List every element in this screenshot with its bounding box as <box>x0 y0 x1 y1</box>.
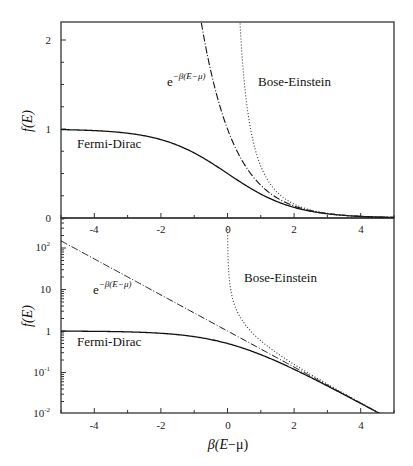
bot-xtick--2: -2 <box>156 419 165 431</box>
fermi-bose-chart: 0 1 2 -4 -2 0 2 4 102 10 1 10-1 10-2 -4 … <box>0 0 413 466</box>
top-y-axis-label: f(E) <box>20 110 36 132</box>
top-panel-plot <box>61 0 394 217</box>
top-xtick--2: -2 <box>156 223 165 235</box>
bot-xtick-4: 4 <box>358 419 364 431</box>
bot-xtick--4: -4 <box>89 419 99 431</box>
bot-ytick-1e-1: 10-1 <box>33 365 50 378</box>
top-annotation-boltzmann: e−β(E−μ) <box>167 71 205 89</box>
bot-ytick-10: 10 <box>40 283 52 295</box>
bose-einstein-curve-top <box>237 0 394 217</box>
top-ytick-2: 2 <box>46 34 52 46</box>
bottom-y-axis-label: f(E) <box>20 305 36 327</box>
top-annotation-fermi-dirac: Fermi-Dirac <box>77 136 141 151</box>
top-xtick-4: 4 <box>358 223 364 235</box>
bottom-panel-frame <box>61 218 394 413</box>
top-xtick-0: 0 <box>225 223 231 235</box>
bottom-annotation-bose-einstein: Bose-Einstein <box>244 270 317 285</box>
bot-ytick-1: 1 <box>46 325 52 337</box>
top-ytick-1: 1 <box>46 123 52 135</box>
bose-einstein-curve-bottom <box>228 226 394 421</box>
top-ytick-0: 0 <box>46 212 52 224</box>
boltzmann-curve-top <box>198 0 394 217</box>
bot-xtick-2: 2 <box>291 419 297 431</box>
bottom-annotation-fermi-dirac: Fermi-Dirac <box>77 334 141 349</box>
bottom-panel-plot <box>61 226 394 421</box>
top-xtick-2: 2 <box>291 223 297 235</box>
bottom-annotation-boltzmann: e−β(E−μ) <box>93 279 131 297</box>
bot-ytick-1e-2: 10-2 <box>33 406 50 419</box>
top-annotation-bose-einstein: Bose-Einstein <box>258 74 331 89</box>
bot-xtick-0: 0 <box>225 419 231 431</box>
bot-ytick-1e2: 102 <box>36 240 51 253</box>
top-xtick--4: -4 <box>89 223 99 235</box>
x-axis-label: β(E−μ) <box>207 437 249 453</box>
top-panel-frame <box>61 22 394 218</box>
